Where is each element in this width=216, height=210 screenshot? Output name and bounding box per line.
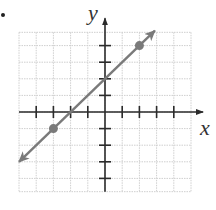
data-point bbox=[135, 41, 144, 50]
line-y-equals-x-plus-2 bbox=[19, 31, 155, 162]
x-axis-label: x bbox=[199, 115, 210, 140]
line-series bbox=[19, 31, 155, 162]
coordinate-plane: x y bbox=[0, 0, 216, 210]
data-point bbox=[49, 124, 58, 133]
y-axis-label: y bbox=[86, 0, 98, 25]
axes bbox=[19, 18, 203, 191]
